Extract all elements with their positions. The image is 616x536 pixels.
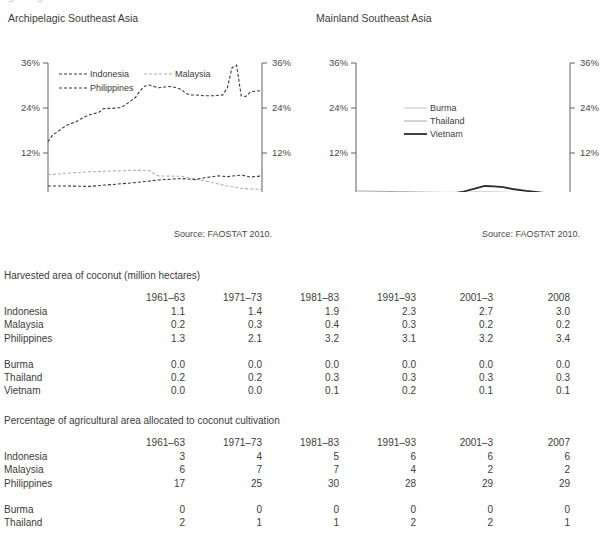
cell: 0.2 xyxy=(416,318,493,331)
cell: 2 xyxy=(416,463,493,476)
cell: 4 xyxy=(185,450,262,463)
table-header-cell-2007: 2007 xyxy=(493,436,570,450)
table-group-spacer xyxy=(4,490,570,503)
chart-legend-archipelagic: Indonesia Malaysia Philippines xyxy=(59,69,211,93)
table-header-cell-label xyxy=(4,291,108,305)
row-label: Indonesia xyxy=(4,305,108,318)
table-caption-percentage-area: Percentage of agricultural area allocate… xyxy=(4,415,612,426)
cell: 2 xyxy=(493,463,570,476)
cell: 0 xyxy=(493,503,570,516)
cell: 0.3 xyxy=(339,318,416,331)
cell: 3.1 xyxy=(339,332,416,345)
cut-off-heading-remnant: Figure: agricultural area and coconut xyxy=(0,0,616,9)
cell: 0 xyxy=(185,503,262,516)
y-tick-label-right-36: 36% xyxy=(272,57,292,68)
table-row: Malaysia 6 7 7 4 2 2 xyxy=(4,463,570,476)
cell: 2.3 xyxy=(339,305,416,318)
table-row: Philippines 1.3 2.1 3.2 3.1 3.2 3.4 xyxy=(4,332,570,345)
table-header-cell-label xyxy=(4,436,108,450)
cell: 3.2 xyxy=(416,332,493,345)
table-header-cell-1971-73: 1971–73 xyxy=(185,291,262,305)
row-label: Thailand xyxy=(4,371,108,384)
chart-title-mainland: Mainland Southeast Asia xyxy=(316,12,432,24)
cell: 0.3 xyxy=(416,371,493,384)
cell: 6 xyxy=(108,463,185,476)
cell: 0 xyxy=(339,503,416,516)
cell: 6 xyxy=(339,450,416,463)
cell: 28 xyxy=(339,477,416,490)
cell: 0.3 xyxy=(339,371,416,384)
chart-title-archipelagic: Archipelagic Southeast Asia xyxy=(8,12,138,24)
cell: 0.1 xyxy=(493,384,570,397)
row-label: Philippines xyxy=(4,477,108,490)
cell: 0.1 xyxy=(416,384,493,397)
table-percentage-area: 1961–63 1971–73 1981–83 1991–93 2001–3 2… xyxy=(4,436,570,529)
table-row: Thailand 2 1 1 2 2 1 xyxy=(4,516,570,529)
chart-source-mainland: Source: FAOSTAT 2010. xyxy=(482,229,580,239)
cell: 0.2 xyxy=(108,371,185,384)
table-row: Malaysia 0.2 0.3 0.4 0.3 0.2 0.2 xyxy=(4,318,570,331)
table-header-cell-1981-83: 1981–83 xyxy=(262,291,339,305)
cell: 29 xyxy=(416,477,493,490)
cell: 7 xyxy=(262,463,339,476)
table-row: Philippines 17 25 30 28 29 29 xyxy=(4,477,570,490)
cell: 25 xyxy=(185,477,262,490)
cell: 2.7 xyxy=(416,305,493,318)
cell: 29 xyxy=(493,477,570,490)
y-tick-label-right-12: 12% xyxy=(580,147,600,158)
table-header-cell-1961-63: 1961–63 xyxy=(108,436,185,450)
y-tick-label-left-24: 24% xyxy=(21,102,41,113)
table-header-cell-2008: 2008 xyxy=(493,291,570,305)
cell: 3.2 xyxy=(262,332,339,345)
cell: 3.4 xyxy=(493,332,570,345)
legend-label-thailand: Thailand xyxy=(430,116,465,126)
series-line-philippines xyxy=(48,65,262,142)
chart-panel-archipelagic: Archipelagic Southeast Asia xyxy=(4,12,304,242)
cell: 0.0 xyxy=(185,384,262,397)
table-block-percentage-area: Percentage of agricultural area allocate… xyxy=(4,415,612,529)
cell: 0 xyxy=(262,503,339,516)
cell: 0 xyxy=(416,503,493,516)
cell: 7 xyxy=(185,463,262,476)
y-tick-label-left-12: 12% xyxy=(329,147,349,158)
y-tick-label-left-24: 24% xyxy=(329,102,349,113)
table-row: Indonesia 3 4 5 6 6 6 xyxy=(4,450,570,463)
cell: 17 xyxy=(108,477,185,490)
table-header-cell-1961-63: 1961–63 xyxy=(108,291,185,305)
cell: 0 xyxy=(108,503,185,516)
cell: 1 xyxy=(185,516,262,529)
row-label: Burma xyxy=(4,358,108,371)
cell: 5 xyxy=(262,450,339,463)
cell: 0.2 xyxy=(493,318,570,331)
row-label: Malaysia xyxy=(4,463,108,476)
chart-source-archipelagic: Source: FAOSTAT 2010. xyxy=(174,229,272,239)
cell: 0.0 xyxy=(493,358,570,371)
legend-label-philippines: Philippines xyxy=(90,83,134,93)
cell: 0.0 xyxy=(108,384,185,397)
cell: 30 xyxy=(262,477,339,490)
line-chart-archipelagic: 36% 24% 12% 0% 36% 24% 12% 0% 1961 1971 … xyxy=(4,30,304,192)
chart-panel-mainland: Mainland Southeast Asia xyxy=(312,12,612,242)
cell: 0.3 xyxy=(185,318,262,331)
legend-label-malaysia: Malaysia xyxy=(175,69,211,79)
cell: 6 xyxy=(416,450,493,463)
table-header-cell-2001-3: 2001–3 xyxy=(416,436,493,450)
legend-label-vietnam: Vietnam xyxy=(430,129,463,139)
cell: 0.3 xyxy=(493,371,570,384)
cell: 1.4 xyxy=(185,305,262,318)
cell: 1.9 xyxy=(262,305,339,318)
chart-legend-mainland: Burma Thailand Vietnam xyxy=(404,103,465,139)
chart-plot-archipelagic: 36% 24% 12% 0% 36% 24% 12% 0% 1961 1971 … xyxy=(4,30,304,192)
y-tick-label-right-12: 12% xyxy=(272,147,292,158)
cell: 1.3 xyxy=(108,332,185,345)
y-tick-label-right-24: 24% xyxy=(580,102,600,113)
line-chart-mainland: 36% 24% 12% 0% 36% 24% 12% 0% 1961 1971 … xyxy=(312,30,612,192)
table-header-cell-1991-93: 1991–93 xyxy=(339,291,416,305)
cell: 0.1 xyxy=(262,384,339,397)
cell: 0.0 xyxy=(262,358,339,371)
row-label: Vietnam xyxy=(4,384,108,397)
y-tick-label-left-36: 36% xyxy=(329,57,349,68)
cell: 0.2 xyxy=(108,318,185,331)
table-header-row: 1961–63 1971–73 1981–83 1991–93 2001–3 2… xyxy=(4,436,570,450)
cell: 0.2 xyxy=(339,384,416,397)
